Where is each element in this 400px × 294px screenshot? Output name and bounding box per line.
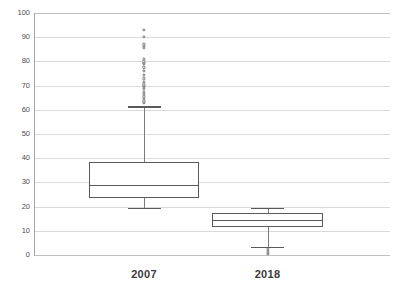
y-tick-label-70: 70 bbox=[2, 82, 30, 90]
y-tick-label-30: 30 bbox=[2, 179, 30, 187]
y-tick-label-10: 10 bbox=[2, 227, 30, 235]
y-tick-label-100: 100 bbox=[2, 9, 30, 17]
y-tick-label-0: 0 bbox=[2, 251, 30, 259]
cap-upper-2007 bbox=[128, 106, 161, 107]
whisker-upper-2007 bbox=[144, 106, 145, 162]
y-tick-label-50: 50 bbox=[2, 130, 30, 138]
gridline-100 bbox=[34, 13, 390, 14]
gridline-50 bbox=[34, 134, 390, 135]
y-tick-label-20: 20 bbox=[2, 203, 30, 211]
gridline-90 bbox=[34, 37, 390, 38]
y-axis-line bbox=[34, 13, 35, 256]
outlier-point bbox=[142, 77, 145, 80]
x-axis-category-labels: 20072018 bbox=[0, 268, 400, 288]
median-line-2018 bbox=[212, 220, 323, 221]
gridline-30 bbox=[34, 182, 390, 183]
gridline-70 bbox=[34, 86, 390, 87]
x-label-2007: 2007 bbox=[131, 268, 157, 280]
cap-lower-2007 bbox=[128, 208, 161, 209]
median-line-2007 bbox=[89, 185, 199, 186]
gridline-10 bbox=[34, 231, 390, 232]
y-axis-tick-labels: 0102030405060708090100 bbox=[0, 13, 30, 255]
whisker-lower-2018 bbox=[268, 227, 269, 246]
outlier-point bbox=[142, 36, 145, 39]
plot-area bbox=[34, 13, 390, 255]
whisker-lower-2007 bbox=[144, 198, 145, 208]
gridline-60 bbox=[34, 110, 390, 111]
y-tick-label-90: 90 bbox=[2, 33, 30, 41]
y-tick-label-40: 40 bbox=[2, 154, 30, 162]
outlier-point bbox=[142, 69, 145, 72]
outlier-point bbox=[142, 66, 145, 69]
gridline-40 bbox=[34, 158, 390, 159]
gridline-80 bbox=[34, 61, 390, 62]
x-label-2018: 2018 bbox=[255, 268, 281, 280]
y-tick-label-60: 60 bbox=[2, 106, 30, 114]
box-2007 bbox=[89, 162, 199, 198]
gridline-20 bbox=[34, 207, 390, 208]
y-tick-label-80: 80 bbox=[2, 58, 30, 66]
outlier-point bbox=[142, 73, 145, 76]
cap-upper-2018 bbox=[251, 208, 284, 209]
gridline-0 bbox=[34, 255, 390, 256]
outlier-point bbox=[142, 28, 145, 31]
box-plot-chart: 0102030405060708090100 20072018 bbox=[0, 0, 400, 294]
